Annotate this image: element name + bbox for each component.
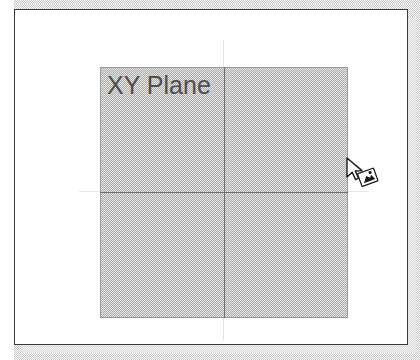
drag-drop-cursor-icon bbox=[344, 156, 380, 190]
x-axis-line bbox=[100, 192, 348, 193]
app-root: XY Plane bbox=[0, 0, 420, 360]
top-texture-strip bbox=[0, 0, 420, 4]
plane-label: XY Plane bbox=[107, 70, 211, 100]
main-white-panel[interactable]: XY Plane bbox=[14, 9, 408, 345]
xy-plane-surface[interactable]: XY Plane bbox=[100, 67, 348, 318]
left-white-gutter bbox=[0, 0, 14, 360]
